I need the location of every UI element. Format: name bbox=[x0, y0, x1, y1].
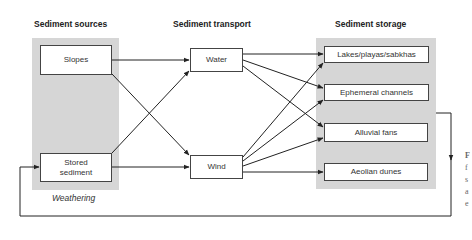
node-lakes-playas-sabkhas: Lakes/playas/sabkhas bbox=[324, 46, 429, 63]
caption-fragment-line: s bbox=[465, 174, 470, 186]
node-stored-sediment: Stored sediment bbox=[40, 153, 112, 182]
caption-fragment-line: a bbox=[465, 186, 470, 198]
node-ephemeral-channels: Ephemeral channels bbox=[324, 84, 429, 101]
caption-fragment: F f s a e bbox=[465, 150, 470, 210]
node-alluvial-fans: Alluvial fans bbox=[324, 123, 428, 142]
node-slopes: Slopes bbox=[40, 45, 112, 75]
node-aeolian-dunes: Aeolian dunes bbox=[324, 163, 428, 181]
node-water: Water bbox=[190, 48, 243, 72]
caption-fragment-line: f bbox=[465, 162, 470, 174]
node-wind: Wind bbox=[190, 155, 243, 179]
caption-fragment-line: e bbox=[465, 198, 470, 210]
weathering-label: Weathering bbox=[52, 193, 95, 203]
caption-fragment-line: F bbox=[465, 150, 470, 162]
